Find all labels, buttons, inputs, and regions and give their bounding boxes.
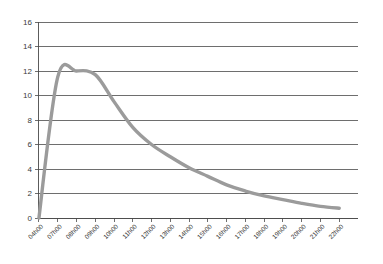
y-tick-label: 6 (28, 140, 33, 149)
y-tick-label: 2 (28, 189, 33, 198)
y-tick-label: 4 (28, 165, 33, 174)
y-tick-label: 8 (28, 116, 33, 125)
line-chart: 0246810121416 04h0007h0008h0009h0010h001… (0, 0, 383, 264)
y-tick-label: 16 (23, 18, 32, 27)
chart-container: 0246810121416 04h0007h0008h0009h0010h001… (0, 0, 383, 264)
y-tick-label: 10 (23, 91, 32, 100)
y-tick-label: 0 (28, 214, 33, 223)
y-tick-label: 14 (23, 42, 32, 51)
y-tick-label: 12 (23, 67, 32, 76)
